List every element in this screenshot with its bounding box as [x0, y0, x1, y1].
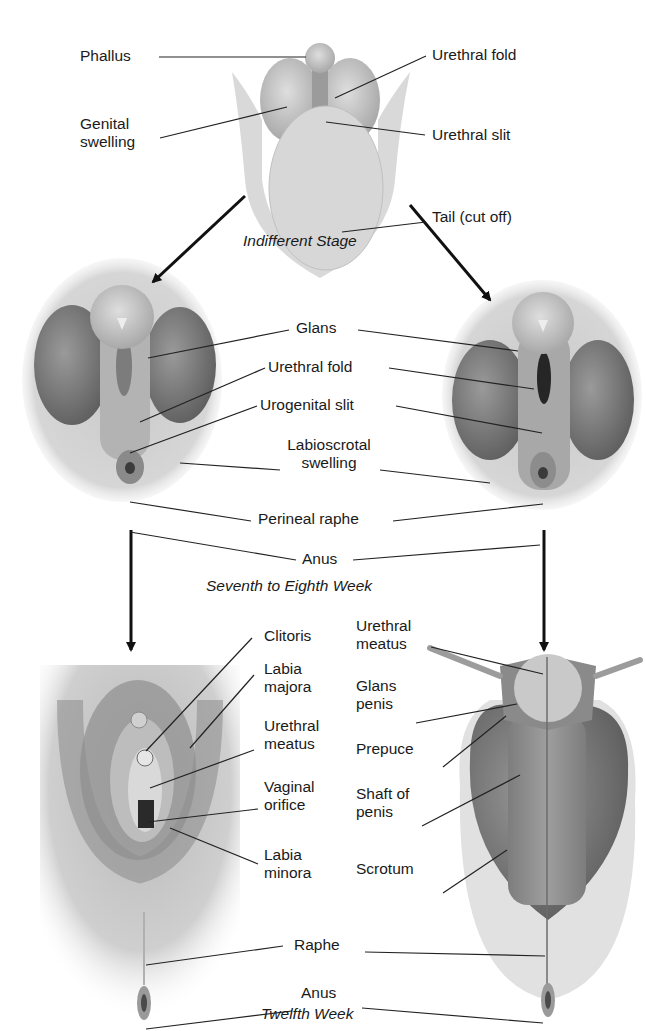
label-labia-majora-line1: Labia	[264, 660, 302, 678]
label-anus-twelfth: Anus	[301, 984, 336, 1002]
stage-title-twelfth: Twelfth Week	[261, 1005, 353, 1023]
label-genital-swelling-line2: swelling	[80, 133, 135, 151]
label-scrotum: Scrotum	[356, 860, 414, 878]
label-raphe: Raphe	[294, 936, 340, 954]
label-urethral-fold-indifferent: Urethral fold	[432, 46, 516, 64]
label-urethral-meatus-female-line2: meatus	[264, 735, 315, 753]
label-anus-week7: Anus	[302, 550, 337, 568]
label-phallus: Phallus	[80, 47, 131, 65]
label-urethral-slit: Urethral slit	[432, 126, 510, 144]
label-prepuce: Prepuce	[356, 740, 414, 758]
label-tail: Tail (cut off)	[432, 208, 512, 226]
label-labioscrotal-line2: swelling	[264, 454, 394, 472]
label-clitoris: Clitoris	[264, 627, 311, 645]
stage-title-indifferent: Indifferent Stage	[243, 232, 357, 250]
label-genital-swelling-line1: Genital	[80, 115, 129, 133]
label-perineal-raphe: Perineal raphe	[258, 510, 359, 528]
label-glans-penis-line2: penis	[356, 695, 393, 713]
label-glans: Glans	[296, 319, 337, 337]
label-shaft-line2: penis	[356, 803, 393, 821]
label-urethral-meatus-male-line2: meatus	[356, 635, 407, 653]
label-vaginal-orifice-line2: orifice	[264, 796, 305, 814]
week7-right-figure	[442, 280, 642, 510]
label-urethral-fold-week7: Urethral fold	[268, 358, 352, 376]
week7-left-figure	[22, 258, 222, 502]
stage-title-seventh-eighth: Seventh to Eighth Week	[206, 577, 372, 595]
label-urethral-meatus-female-line1: Urethral	[264, 717, 319, 735]
label-glans-penis-line1: Glans	[356, 677, 397, 695]
label-urethral-meatus-male-line1: Urethral	[356, 617, 411, 635]
twelfth-male-figure	[430, 648, 640, 1017]
label-vaginal-orifice-line1: Vaginal	[264, 778, 315, 796]
label-urogenital-slit: Urogenital slit	[260, 396, 354, 414]
label-labia-minora-line2: minora	[264, 864, 311, 882]
label-labia-minora-line1: Labia	[264, 846, 302, 864]
label-shaft-line1: Shaft of	[356, 785, 409, 803]
label-labioscrotal-line1: Labioscrotal	[264, 436, 394, 454]
twelfth-female-figure	[40, 665, 240, 1020]
label-labia-majora-line2: majora	[264, 678, 311, 696]
